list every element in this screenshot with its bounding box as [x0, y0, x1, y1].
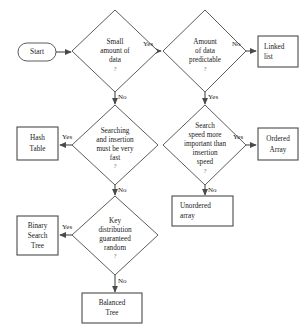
decision-5-line-2: distribution [98, 226, 132, 234]
node-result-binary-search-tree[interactable]: Binary Search Tree [17, 216, 58, 255]
decision-5-line-1: Key [109, 217, 121, 225]
decision-2-line-3: predictable [189, 56, 221, 64]
decision-3-question-mark: ? [114, 162, 117, 169]
decision-2-line-1: Amount [193, 38, 217, 46]
edge-label-d1-no: No [118, 93, 127, 101]
binary-search-tree-line-2: Search [28, 232, 48, 240]
ordered-array-shape [258, 128, 298, 160]
edge-label-d3-yes: Yes [62, 133, 72, 141]
node-decision-amount-of-data-predictable[interactable]: Amount of data predictable ? [163, 10, 246, 92]
decision-4-line-1: Search [195, 122, 215, 130]
edge-label-d5-no: No [118, 277, 127, 285]
decision-2-line-2: of data [195, 47, 216, 55]
edge-label-d2-no: No [232, 40, 241, 48]
connectors [56, 51, 256, 292]
linked-list-line-1: Linked [264, 43, 285, 51]
decision-5-question-mark: ? [114, 252, 117, 259]
edge-label-d1-yes: Yes [143, 40, 153, 48]
edge-label-d3-no: No [118, 186, 127, 194]
decision-3-line-4: fast [110, 154, 120, 162]
ordered-array-line-2: Array [270, 146, 287, 154]
decision-1-question-mark: ? [114, 65, 117, 72]
unordered-array-line-2: array [180, 212, 195, 220]
hash-table-shape [17, 127, 58, 160]
node-decision-searching-and-insertion-fast[interactable]: Searching and insertion must be very fas… [72, 105, 158, 185]
decision-1-line-2: amount of [100, 47, 130, 55]
node-start[interactable]: Start [18, 43, 56, 61]
unordered-array-line-1: Unordered [180, 202, 211, 210]
hash-table-line-1: Hash [30, 134, 45, 142]
node-result-hash-table[interactable]: Hash Table [17, 127, 58, 160]
edge-label-d2-yes: Yes [208, 93, 218, 101]
node-result-balanced-tree[interactable]: Balanced Tree [82, 293, 142, 323]
linked-list-line-2: list [264, 53, 273, 61]
flowchart-canvas: Start Small amount of data ? Yes No Amou… [0, 0, 307, 336]
decision-3-line-2: and insertion [96, 136, 134, 144]
balanced-tree-line-2: Tree [106, 309, 119, 317]
decision-2-question-mark: ? [204, 65, 207, 72]
node-result-unordered-array[interactable]: Unordered array [172, 196, 233, 226]
node-result-linked-list[interactable]: Linked list [258, 36, 298, 67]
start-label: Start [30, 47, 45, 56]
binary-search-tree-line-3: Tree [31, 242, 44, 250]
edge-label-d4-yes: Yes [233, 133, 243, 141]
edge-label-d4-no: No [208, 186, 217, 194]
decision-1-line-1: Small [107, 38, 124, 46]
decision-4-line-3: important than [184, 140, 227, 148]
node-result-ordered-array[interactable]: Ordered Array [258, 128, 298, 160]
node-decision-key-distribution-random[interactable]: Key distribution guaranteed random ? [72, 196, 158, 275]
balanced-tree-line-1: Balanced [99, 299, 126, 307]
decision-5-line-4: random [104, 244, 126, 252]
decision-4-question-mark: ? [204, 167, 207, 174]
edge-label-d5-yes: Yes [62, 223, 72, 231]
decision-1-line-3: data [109, 56, 122, 64]
ordered-array-line-1: Ordered [266, 135, 290, 143]
decision-4-line-5: speed [197, 158, 214, 166]
decision-3-line-1: Searching [101, 127, 130, 135]
decision-4-line-4: insertion [192, 149, 218, 157]
hash-table-line-2: Table [30, 145, 46, 153]
linked-list-shape [258, 36, 298, 67]
node-decision-search-speed-more-important[interactable]: Search speed more important than inserti… [163, 105, 246, 185]
decision-3-line-3: must be very [96, 145, 134, 153]
binary-search-tree-line-1: Binary [28, 222, 48, 230]
decision-4-line-2: speed more [189, 131, 222, 139]
decision-5-line-3: guaranteed [99, 235, 131, 243]
node-decision-small-amount-of-data[interactable]: Small amount of data ? [72, 10, 158, 92]
